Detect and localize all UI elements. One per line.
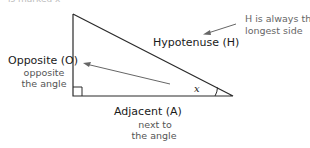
adjacent-desc-line2: the angle xyxy=(124,131,184,142)
opposite-arrow-shaft xyxy=(86,64,170,84)
angle-x-label: x xyxy=(194,83,200,95)
hypotenuse-note-line2: longest side xyxy=(245,26,303,37)
opposite-label: Opposite (O) xyxy=(8,55,78,68)
adjacent-label: Adjacent (A) xyxy=(114,106,182,119)
opposite-arrow-head xyxy=(83,62,91,67)
angle-arc xyxy=(215,88,218,97)
hypotenuse-label: Hypotenuse (H) xyxy=(153,37,239,50)
triangle-outline xyxy=(73,14,233,96)
opposite-desc-line2: the angle xyxy=(18,79,70,90)
right-angle-marker xyxy=(73,87,82,96)
hypotenuse-note-line1: H is always the xyxy=(245,14,310,25)
note-arrow-head xyxy=(203,30,211,35)
note-arrow-shaft xyxy=(208,24,236,33)
trig-triangle-diagram: is marked x Hypotenuse (H) H is always t… xyxy=(0,0,310,148)
